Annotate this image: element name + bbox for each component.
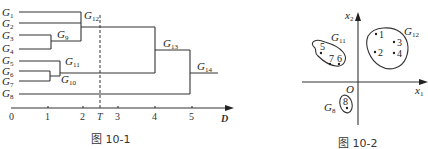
caption-figure-10-2: 图 10-2 — [338, 137, 377, 149]
cluster-label-g8: G8 — [324, 101, 336, 115]
tick-t: T — [97, 111, 104, 122]
branch-g9 — [19, 35, 81, 49]
node-label-g13: G13 — [163, 37, 178, 51]
point-label-8: 8 — [343, 96, 348, 107]
caption-figure-10-1: 图 10-1 — [91, 133, 130, 146]
cluster-plot: x2 x1 O G11 5 7 6 G12 1 3 2 4 G8 8 图 10-… — [302, 9, 428, 149]
point-1 — [375, 33, 377, 35]
point-2 — [374, 51, 376, 53]
tick-3: 3 — [115, 111, 120, 122]
point-label-4: 4 — [397, 48, 402, 59]
point-3 — [393, 41, 395, 43]
point-label-6: 6 — [337, 53, 342, 64]
cluster-label-g11: G11 — [331, 31, 346, 45]
axis-label-d: D — [220, 113, 228, 124]
point-label-2: 2 — [378, 47, 383, 58]
node-label-g11: G11 — [65, 55, 80, 69]
branch-g14 — [19, 50, 218, 94]
node-label-g12: G12 — [84, 9, 99, 23]
tick-5: 5 — [189, 111, 194, 122]
x1-axis-label: x1 — [414, 84, 424, 98]
dendrogram: G1 G2 G3 G4 G5 G6 G7 G8 G12 G9 G11 G10 G… — [2, 6, 234, 146]
tick-4: 4 — [152, 111, 157, 122]
tick-1: 1 — [45, 111, 50, 122]
node-label-g14: G14 — [197, 60, 212, 74]
point-label-3: 3 — [397, 37, 402, 48]
node-label-g9: G9 — [57, 28, 69, 42]
origin-label: O — [346, 83, 354, 95]
point-4 — [393, 52, 395, 54]
branch-g11 — [19, 61, 155, 76]
node-label-g10: G10 — [61, 73, 76, 87]
figure-canvas: G1 G2 G3 G4 G5 G6 G7 G8 G12 G9 G11 G10 G… — [0, 0, 428, 149]
point-8 — [346, 107, 348, 109]
tick-2: 2 — [80, 111, 85, 122]
axis-arrow-icon — [225, 105, 234, 111]
x2-arrow-icon — [355, 12, 361, 21]
branch-g10 — [19, 71, 60, 81]
point-label-5: 5 — [320, 41, 325, 52]
point-label-7: 7 — [329, 53, 334, 64]
leaf-label-g3: G3 — [2, 29, 14, 43]
cluster-label-g12: G12 — [404, 25, 419, 39]
x1-arrow-icon — [419, 79, 428, 85]
tick-0: 0 — [9, 111, 14, 122]
point-5 — [320, 52, 322, 54]
branch-g1-g2 — [19, 12, 81, 23]
x2-axis-label: x2 — [344, 9, 354, 23]
point-label-1: 1 — [379, 29, 384, 40]
leaf-label-g8: G8 — [2, 87, 14, 101]
